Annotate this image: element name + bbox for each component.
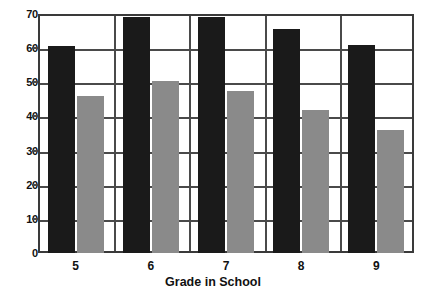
bar-group [113,14,188,253]
bar-group [264,14,339,253]
bar [227,91,254,253]
y-axis-tick-label: 70 [6,9,38,20]
y-axis-tick-label: 0 [6,248,38,259]
bar-chart: 010203040506070 56789 Grade in School [0,0,426,296]
bar [348,45,375,253]
bar-group [188,14,263,253]
bar-group [38,14,113,253]
y-axis: 010203040506070 [0,14,38,253]
bar [302,110,329,253]
bar [123,17,150,253]
bar [198,17,225,253]
bar [273,29,300,253]
x-axis-title: Grade in School [0,274,426,290]
bar [377,130,404,253]
bar [77,96,104,253]
bar-groups [38,14,414,253]
bar-group [339,14,414,253]
bar [152,81,179,253]
bar [48,46,75,253]
